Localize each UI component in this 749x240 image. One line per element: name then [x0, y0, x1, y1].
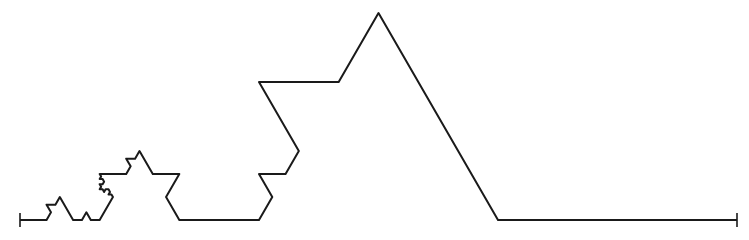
- koch-curve-path: [20, 13, 737, 220]
- koch-curve-diagram: [0, 0, 749, 240]
